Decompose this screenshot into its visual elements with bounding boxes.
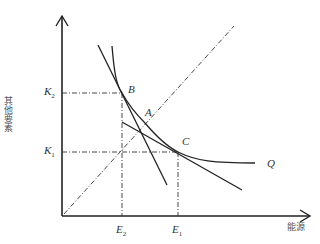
guide-lines (62, 26, 234, 216)
tick-k2-sub: 2 (51, 92, 55, 100)
budget-line-steep (98, 45, 167, 185)
point-c-label: C (182, 136, 189, 147)
tick-e2-sub: 2 (123, 230, 127, 238)
tick-k1-sub: 1 (51, 151, 55, 159)
budget-line-flat (122, 122, 242, 190)
tick-e1-name: E (172, 223, 179, 235)
axes (56, 16, 310, 222)
tick-e2-name: E (116, 223, 123, 235)
expansion-ray (64, 26, 234, 214)
tick-k2: K2 (44, 86, 55, 100)
x-axis-label: 能源 (287, 223, 305, 232)
tick-e2: E2 (116, 224, 126, 238)
y-axis-label: 其他要素 (3, 96, 12, 132)
tick-e1-sub: 1 (179, 230, 183, 238)
point-b-label: B (128, 84, 135, 95)
tick-e1: E1 (172, 224, 182, 238)
point-a-label: A (145, 107, 152, 118)
diagram-canvas (0, 0, 320, 244)
isoquant-q-label: Q (267, 158, 275, 169)
tick-k1: K1 (44, 145, 55, 159)
